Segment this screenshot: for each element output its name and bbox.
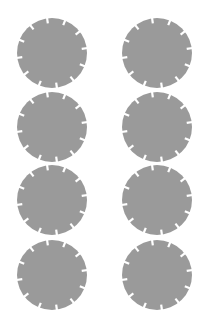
- notch: [47, 17, 48, 23]
- circle-body: [122, 165, 192, 235]
- circle-r2-c1: [16, 91, 87, 162]
- circle-r3-c1: [16, 164, 87, 235]
- notched-circles-grid: [0, 0, 204, 327]
- circle-r2-c2: [121, 91, 192, 162]
- circle-r4-c1: [16, 239, 87, 310]
- circle-r1-c1: [16, 17, 87, 88]
- notch: [187, 270, 193, 271]
- notch: [56, 305, 57, 311]
- notch: [121, 57, 127, 58]
- circle-r4-c2: [121, 239, 192, 310]
- notch: [121, 131, 127, 132]
- circle-body: [122, 18, 192, 88]
- notch: [82, 195, 88, 196]
- circle-body: [17, 92, 87, 162]
- notch: [16, 204, 22, 205]
- notch: [152, 164, 153, 170]
- notch: [152, 91, 153, 97]
- notch: [82, 270, 88, 271]
- notch: [16, 131, 22, 132]
- circle-body: [17, 165, 87, 235]
- notch: [56, 230, 57, 236]
- notch: [152, 239, 153, 245]
- notch: [16, 279, 22, 280]
- circle-body: [17, 240, 87, 310]
- notch: [56, 83, 57, 89]
- circle-body: [122, 92, 192, 162]
- notch: [187, 195, 193, 196]
- notch: [56, 157, 57, 163]
- circle-r3-c2: [121, 164, 192, 235]
- notch: [47, 91, 48, 97]
- notch: [161, 305, 162, 311]
- notch: [82, 48, 88, 49]
- notch: [152, 17, 153, 23]
- notch: [161, 230, 162, 236]
- notch: [121, 204, 127, 205]
- notch: [161, 157, 162, 163]
- notch: [187, 48, 193, 49]
- notch: [47, 164, 48, 170]
- notch: [82, 122, 88, 123]
- notch: [16, 57, 22, 58]
- notch: [187, 122, 193, 123]
- notch: [47, 239, 48, 245]
- circle-body: [122, 240, 192, 310]
- circle-r1-c2: [121, 17, 192, 88]
- notch: [161, 83, 162, 89]
- notch: [121, 279, 127, 280]
- circle-body: [17, 18, 87, 88]
